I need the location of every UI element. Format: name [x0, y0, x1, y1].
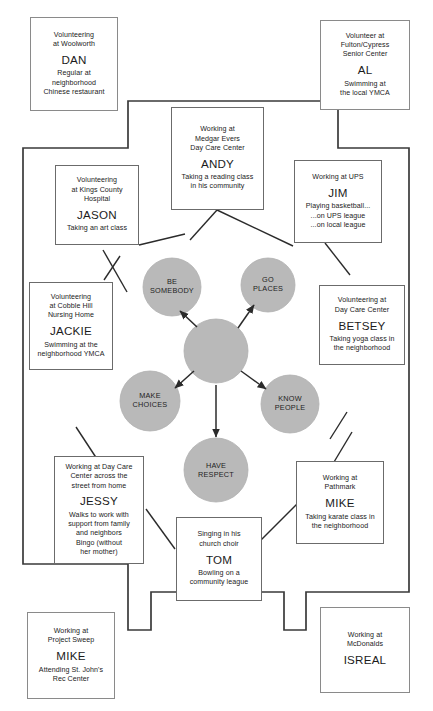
person-card-activity: Taking yoga class inthe neighborhood	[330, 335, 395, 354]
person-card-name: JASON	[77, 204, 117, 224]
arrow-center-to-know-people	[241, 371, 266, 389]
person-card-workplace: Working at Day CareCenter across thestre…	[65, 463, 132, 491]
person-card-workplace: Working atMcDonalds	[347, 631, 383, 650]
connector-tom-to-mike	[261, 504, 297, 540]
person-card-andy[interactable]: Working atMedgar EversDay Care Center AN…	[171, 107, 264, 210]
person-card-name: BETSEY	[338, 315, 385, 335]
person-card-activity: Swimming atthe local YMCA	[340, 80, 390, 99]
connector-andy-to-hub-right	[217, 210, 293, 246]
person-card-mike-pathmark[interactable]: Working atPathmark MIKE Taking karate cl…	[296, 461, 384, 544]
person-card-jackie[interactable]: Volunteeringat Cobble HillNursing Home J…	[29, 282, 113, 370]
goal-circle-be-somebody	[143, 258, 201, 316]
connector-betsey-to-hub	[330, 412, 347, 439]
person-card-name: AL	[358, 60, 373, 80]
person-card-tom[interactable]: Singing in hischurch choir TOM Bowling o…	[176, 517, 262, 601]
person-card-workplace: Volunteeringat Kings CountyHospital	[71, 176, 122, 204]
person-card-name: TOM	[206, 549, 232, 569]
person-card-name: ANDY	[201, 153, 234, 173]
person-card-workplace: Working atPathmark	[323, 474, 358, 493]
connector-jessy-to-hub	[76, 427, 97, 459]
person-card-name: MIKE	[325, 493, 354, 513]
person-card-isreal[interactable]: Working atMcDonalds ISREAL	[320, 607, 410, 693]
hub-center-circle	[184, 319, 248, 383]
person-card-name: JACKIE	[50, 321, 92, 341]
person-card-name: ISREAL	[344, 649, 387, 669]
arrow-center-to-go-places	[238, 305, 254, 328]
person-card-name: JESSY	[80, 491, 118, 511]
connector-jessy-to-tom	[146, 509, 175, 549]
person-card-activity: Taking an art class	[67, 224, 127, 233]
person-card-al[interactable]: Volunteer atFulton/CypressSenior Center …	[320, 20, 410, 110]
person-card-activity: Taking a reading classin his community	[182, 173, 254, 192]
person-card-jessy[interactable]: Working at Day CareCenter across thestre…	[54, 456, 144, 564]
person-card-activity: Swimming at theneighborhood YMCA	[38, 341, 105, 360]
person-card-jason[interactable]: Volunteeringat Kings CountyHospital JASO…	[55, 165, 139, 245]
connector-jason-to-hub	[139, 234, 185, 245]
goal-circle-have-respect	[184, 438, 248, 502]
person-card-activity: Bowling on acommunity league	[190, 569, 249, 588]
person-card-workplace: Volunteering atDay Care Center	[335, 296, 389, 315]
person-card-dan[interactable]: Volunteeringat Woolworth DAN Regular atn…	[30, 17, 118, 111]
arrow-center-to-be-somebody	[180, 311, 197, 327]
person-card-name: JIM	[328, 182, 347, 202]
person-card-workplace: Volunteeringat Woolworth	[53, 31, 95, 50]
person-card-activity: Regular atneighborhoodChinese restaurant	[43, 69, 104, 97]
connector-andy-to-hub	[190, 210, 217, 240]
person-card-betsey[interactable]: Volunteering atDay Care Center BETSEY Ta…	[319, 285, 405, 365]
person-card-workplace: Volunteer atFulton/CypressSenior Center	[341, 32, 390, 60]
person-card-activity: Taking karate class inthe neighborhood	[305, 513, 374, 532]
diagram-canvas: BE SOMEBODY GO PLACES MAKE CHOICES KNOW …	[0, 0, 433, 711]
person-card-workplace: Singing in hischurch choir	[197, 530, 240, 549]
person-card-activity: Attending St. John'sRec Center	[39, 666, 103, 685]
goal-circle-make-choices	[120, 371, 180, 431]
connector-jim-to-hub	[325, 243, 350, 275]
person-card-mike-project-sweep[interactable]: Working atProject Sweep MIKE Attending S…	[27, 612, 115, 699]
arrow-center-to-make-choices	[175, 371, 194, 388]
person-card-jim[interactable]: Working at UPS JIM Playing basketball...…	[294, 160, 382, 243]
person-card-activity: Playing basketball......on UPS league...…	[306, 202, 371, 230]
person-card-activity: Walks to work withsupport from familyand…	[68, 511, 130, 557]
person-card-workplace: Working atProject Sweep	[48, 627, 95, 646]
person-card-workplace: Volunteeringat Cobble HillNursing Home	[48, 293, 94, 321]
goal-circle-know-people	[261, 375, 319, 433]
person-card-name: MIKE	[56, 646, 85, 666]
connector-mike-to-hub	[334, 432, 352, 462]
goal-circle-go-places	[241, 258, 295, 312]
person-card-workplace: Working atMedgar EversDay Care Center	[190, 125, 244, 153]
person-card-name: DAN	[61, 49, 86, 69]
person-card-workplace: Working at UPS	[312, 173, 363, 182]
